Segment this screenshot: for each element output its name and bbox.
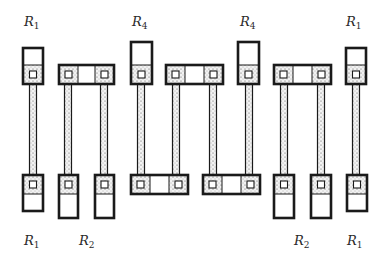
via-square-icon — [209, 181, 216, 188]
via-square-icon — [175, 181, 182, 188]
stem-r2-right-b — [318, 84, 325, 175]
via-square-icon — [281, 181, 288, 188]
via-square-icon — [101, 181, 108, 188]
via-square-icon — [318, 181, 325, 188]
stem-r1-left — [30, 84, 37, 175]
label-top-r4-right: R4 — [240, 15, 256, 31]
pad-bottom-r1-right — [347, 175, 367, 211]
label-top-r1-right: R1 — [346, 15, 362, 31]
via-square-icon — [353, 71, 360, 78]
via-square-icon — [30, 181, 37, 188]
pad-top-r1-right — [346, 48, 366, 84]
pad-top-r1-left — [23, 48, 43, 84]
label-subscript: 1 — [356, 21, 362, 31]
label-top-r4-left: R4 — [132, 15, 148, 31]
label-subscript: 4 — [142, 21, 148, 31]
label-base: R — [294, 233, 304, 248]
label-bottom-r2-left: R2 — [79, 234, 95, 250]
via-square-icon — [101, 71, 108, 78]
label-base: R — [24, 14, 34, 29]
pad-bottom-r2-right-a — [274, 175, 294, 218]
label-base: R — [79, 233, 89, 248]
via-square-icon — [245, 71, 252, 78]
label-bottom-r2-right: R2 — [294, 234, 310, 250]
label-subscript: 1 — [357, 240, 363, 250]
label-base: R — [347, 233, 357, 248]
resistor-layout-diagram — [0, 0, 386, 258]
pad-bottom-middle-left — [131, 175, 188, 194]
label-bottom-r1-right: R1 — [347, 234, 363, 250]
pad-top-r2-right — [274, 65, 331, 84]
stem-r2-left-a — [65, 84, 72, 175]
via-square-icon — [138, 71, 145, 78]
label-subscript: 2 — [89, 240, 95, 250]
pad-bottom-r2-left-b — [95, 175, 114, 218]
pad-bottom-middle-right — [203, 175, 260, 194]
label-base: R — [132, 14, 142, 29]
via-square-icon — [137, 181, 144, 188]
stem-r2-right-a — [281, 84, 288, 175]
label-base: R — [240, 14, 250, 29]
label-subscript: 1 — [34, 240, 40, 250]
via-square-icon — [65, 71, 72, 78]
label-subscript: 4 — [250, 21, 256, 31]
pad-bottom-r2-left-a — [59, 175, 78, 218]
label-base: R — [24, 233, 34, 248]
pad-top-r2-left — [59, 65, 114, 84]
stem-r2-left-b — [101, 84, 108, 175]
pad-bottom-r2-right-b — [311, 175, 331, 218]
stem-r4-left — [138, 84, 145, 175]
via-square-icon — [354, 181, 361, 188]
label-base: R — [346, 14, 356, 29]
label-top-r1-left: R1 — [24, 15, 40, 31]
via-square-icon — [172, 71, 179, 78]
label-subscript: 2 — [304, 240, 310, 250]
stem-middle-a — [173, 84, 180, 175]
pad-top-r4-left — [131, 42, 152, 84]
pad-top-r4-right — [238, 42, 259, 84]
pad-bottom-r1-left — [23, 175, 43, 211]
via-square-icon — [65, 181, 72, 188]
via-square-icon — [318, 71, 325, 78]
stem-r1-right — [353, 84, 360, 175]
stem-r4-right — [246, 84, 253, 175]
via-square-icon — [30, 71, 37, 78]
stem-middle-b — [210, 84, 217, 175]
pad-top-middle — [166, 65, 223, 84]
via-square-icon — [280, 71, 287, 78]
via-square-icon — [247, 181, 254, 188]
label-bottom-r1-left: R1 — [24, 234, 40, 250]
via-square-icon — [210, 71, 217, 78]
label-subscript: 1 — [34, 21, 40, 31]
resistor-stems — [30, 84, 360, 175]
resistor-pads — [23, 42, 367, 218]
